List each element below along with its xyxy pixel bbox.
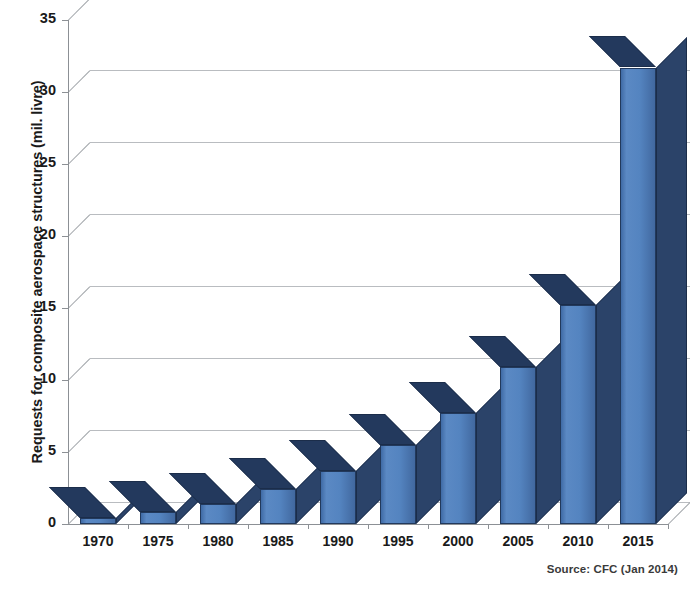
gridline-depth-riser <box>68 70 91 93</box>
bar-front-face <box>620 68 656 524</box>
y-tick-label: 25 <box>22 154 56 170</box>
bar-2005 <box>500 367 536 524</box>
x-tick-label: 2000 <box>427 533 489 549</box>
bar-top-face <box>229 458 296 489</box>
y-tick-mark <box>62 308 69 309</box>
y-tick-mark <box>62 524 69 525</box>
x-tick-mark <box>308 524 309 529</box>
bar-top-face <box>589 36 656 67</box>
bar-front-face <box>80 518 116 524</box>
bar-front-face <box>200 504 236 524</box>
y-tick-mark <box>62 164 69 165</box>
bar-2000 <box>440 413 476 524</box>
bar-top-face <box>109 481 176 512</box>
y-tick-label: 20 <box>22 226 56 242</box>
x-tick-mark <box>548 524 549 529</box>
bar-front-face <box>140 512 176 524</box>
bar-1990 <box>320 471 356 524</box>
y-tick-mark <box>62 380 69 381</box>
y-tick-label: 15 <box>22 298 56 314</box>
y-tick-label: 35 <box>22 10 56 26</box>
x-tick-mark <box>128 524 129 529</box>
x-tick-mark <box>608 524 609 529</box>
bar-1995 <box>380 445 416 524</box>
bar-front-face <box>260 489 296 524</box>
y-tick-mark <box>62 452 69 453</box>
x-tick-label: 1970 <box>67 533 129 549</box>
bar-front-face <box>320 471 356 524</box>
bar-side-face <box>656 36 687 524</box>
x-tick-mark <box>368 524 369 529</box>
x-tick-label: 2010 <box>547 533 609 549</box>
gridline-depth-riser <box>68 430 91 453</box>
y-tick-label: 0 <box>22 514 56 530</box>
y-axis-line <box>68 20 69 524</box>
bar-front-face <box>380 445 416 524</box>
bar-1985 <box>260 489 296 524</box>
bar-chart: Requests for composite aerospace structu… <box>0 0 690 589</box>
gridline-depth-riser <box>68 142 91 165</box>
x-tick-label: 1985 <box>247 533 309 549</box>
x-tick-mark <box>188 524 189 529</box>
y-tick-label: 30 <box>22 82 56 98</box>
y-tick-mark <box>62 20 69 21</box>
bar-1980 <box>200 504 236 524</box>
x-tick-label: 2015 <box>607 533 669 549</box>
gridline-depth-riser <box>68 358 91 381</box>
bar-2010 <box>560 305 596 524</box>
y-tick-mark <box>62 92 69 93</box>
gridline <box>90 142 690 143</box>
x-tick-label: 1975 <box>127 533 189 549</box>
x-tick-label: 1995 <box>367 533 429 549</box>
bar-top-face <box>469 336 536 367</box>
x-tick-label: 2005 <box>487 533 549 549</box>
x-tick-mark <box>668 524 669 529</box>
gridline <box>90 70 690 71</box>
gridline <box>90 286 690 287</box>
bar-2015 <box>620 68 656 524</box>
x-tick-mark <box>248 524 249 529</box>
bar-1970 <box>80 518 116 524</box>
plot-area: 05101520253035 1970197519801985199019952… <box>0 0 690 589</box>
gridline <box>90 214 690 215</box>
gridline-depth-riser <box>68 286 91 309</box>
bar-top-face <box>289 440 356 471</box>
source-note: Source: CFC (Jan 2014) <box>547 563 678 575</box>
bar-top-face <box>409 382 476 413</box>
gridline-depth-riser <box>68 0 91 21</box>
bar-front-face <box>560 305 596 524</box>
bar-top-face <box>169 473 236 504</box>
bar-front-face <box>500 367 536 524</box>
x-tick-mark <box>428 524 429 529</box>
bar-front-face <box>440 413 476 524</box>
gridline-depth-riser <box>68 214 91 237</box>
x-tick-label: 1990 <box>307 533 369 549</box>
x-tick-mark <box>488 524 489 529</box>
bar-1975 <box>140 512 176 524</box>
x-tick-label: 1980 <box>187 533 249 549</box>
y-tick-label: 10 <box>22 370 56 386</box>
y-tick-label: 5 <box>22 442 56 458</box>
bar-top-face <box>529 274 596 305</box>
y-tick-mark <box>62 236 69 237</box>
